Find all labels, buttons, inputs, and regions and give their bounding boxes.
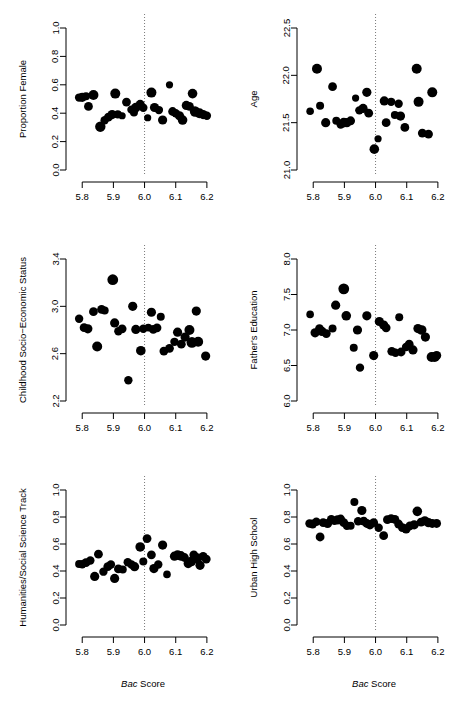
- data-point: [135, 542, 145, 552]
- data-point: [312, 64, 322, 74]
- y-axis-label: Father's Education: [248, 291, 259, 370]
- plot-svg-humanities-track: 0.00.20.40.60.81.05.85.96.06.16.2Humanit…: [0, 462, 232, 703]
- data-point: [192, 306, 201, 315]
- data-point: [178, 115, 188, 125]
- data-point: [374, 135, 381, 142]
- data-point: [130, 562, 139, 571]
- data-point: [362, 88, 371, 97]
- data-point: [364, 109, 373, 118]
- y-tick-label: 1.0: [50, 483, 61, 496]
- panel-proportion-female: 0.00.20.40.60.81.05.85.96.06.16.2Proport…: [0, 0, 232, 232]
- data-point: [184, 325, 194, 335]
- data-point: [147, 550, 156, 559]
- y-tick-label: 7.5: [281, 288, 292, 301]
- x-tick-label: 6.2: [200, 191, 213, 202]
- x-tick-label: 6.1: [169, 191, 182, 202]
- data-point: [193, 337, 203, 347]
- data-point: [110, 318, 119, 327]
- data-point: [202, 555, 211, 564]
- data-point: [128, 302, 137, 311]
- data-point: [350, 498, 358, 506]
- x-tick-label: 6.1: [400, 646, 413, 657]
- data-point: [400, 123, 409, 132]
- x-tick-label: 5.8: [307, 422, 320, 433]
- data-point: [370, 144, 380, 154]
- y-tick-label: 0.0: [50, 163, 61, 176]
- data-point: [154, 560, 162, 568]
- data-point: [83, 324, 92, 333]
- data-point: [143, 534, 152, 543]
- panel-childhood-ses: 2.22.63.03.45.85.96.06.16.2Childhood Soc…: [0, 231, 232, 463]
- panel-age: 21.021.522.022.55.85.96.06.16.2Age: [231, 0, 463, 232]
- data-point: [147, 308, 156, 317]
- y-tick-label: 8.0: [281, 252, 292, 265]
- y-axis-label: Childhood Socio−Economic Status: [17, 257, 28, 403]
- y-tick-label: 0.6: [281, 537, 292, 550]
- data-point: [382, 323, 391, 332]
- x-tick-label: 6.1: [400, 422, 413, 433]
- plot-svg-urban-high-school: 0.00.20.40.60.81.05.85.96.06.16.2Urban H…: [231, 462, 463, 703]
- data-point: [316, 533, 325, 542]
- y-tick-label: 0.0: [50, 618, 61, 631]
- panel-fathers-education: 6.06.57.07.58.05.85.96.06.16.2Father's E…: [231, 231, 463, 463]
- data-point: [92, 342, 102, 352]
- data-point: [146, 88, 156, 98]
- y-tick-label: 0.2: [50, 591, 61, 604]
- data-point: [346, 116, 355, 125]
- x-axis-label: Bac Score: [121, 678, 165, 689]
- data-point: [84, 102, 93, 111]
- data-points: [306, 283, 441, 371]
- plot-svg-age: 21.021.522.022.55.85.96.06.16.2Age: [231, 0, 463, 232]
- data-point: [101, 306, 109, 314]
- data-point: [396, 111, 405, 120]
- y-tick-label: 0.6: [50, 537, 61, 550]
- data-point: [374, 524, 382, 532]
- y-tick-label: 0.8: [281, 510, 292, 523]
- data-point: [118, 324, 127, 333]
- y-tick-label: 21.5: [281, 113, 292, 131]
- y-tick-label: 22.0: [281, 66, 292, 85]
- x-tick-label: 6.0: [138, 191, 151, 202]
- data-point: [421, 333, 430, 342]
- data-points: [75, 534, 211, 583]
- x-tick-label: 6.2: [200, 646, 213, 657]
- data-point: [122, 98, 131, 107]
- x-tick-label: 6.2: [431, 191, 444, 202]
- data-point: [75, 315, 83, 323]
- data-point: [136, 346, 146, 356]
- data-point: [338, 283, 349, 294]
- y-tick-label: 0.4: [50, 107, 61, 120]
- x-tick-label: 5.8: [307, 646, 320, 657]
- data-point: [94, 550, 103, 559]
- data-point: [139, 104, 147, 112]
- y-tick-label: 1.0: [281, 483, 292, 496]
- x-axis-label-italic: Bac: [352, 678, 369, 689]
- y-tick-label: 0.4: [50, 564, 61, 577]
- y-tick-label: 1.0: [50, 21, 61, 34]
- data-points: [75, 274, 210, 384]
- data-point: [357, 506, 366, 515]
- plot-svg-childhood-ses: 2.22.63.03.45.85.96.06.16.2Childhood Soc…: [0, 231, 232, 463]
- data-point: [201, 351, 210, 360]
- data-point: [347, 522, 355, 530]
- data-point: [362, 311, 371, 320]
- x-tick-label: 5.8: [76, 646, 89, 657]
- y-tick-label: 0.2: [50, 135, 61, 148]
- data-point: [110, 574, 119, 583]
- data-point: [119, 565, 127, 573]
- data-point: [432, 351, 441, 360]
- y-tick-label: 0.4: [281, 564, 292, 577]
- x-tick-label: 5.8: [76, 422, 89, 433]
- panel-humanities-track: 0.00.20.40.60.81.05.85.96.06.16.2Humanit…: [0, 462, 232, 703]
- plot-svg-proportion-female: 0.00.20.40.60.81.05.85.96.06.16.2Proport…: [0, 0, 232, 232]
- data-point: [432, 519, 441, 528]
- x-tick-label: 5.9: [107, 191, 120, 202]
- y-tick-label: 21.0: [281, 161, 292, 180]
- data-point: [158, 540, 167, 549]
- y-tick-label: 2.2: [50, 394, 61, 407]
- scatter-panel-grid: 0.00.20.40.60.81.05.85.96.06.16.2Proport…: [0, 0, 463, 703]
- x-tick-label: 5.8: [76, 191, 89, 202]
- y-axis-label: Age: [248, 91, 259, 108]
- data-point: [394, 100, 402, 108]
- y-tick-label: 0.0: [281, 618, 292, 631]
